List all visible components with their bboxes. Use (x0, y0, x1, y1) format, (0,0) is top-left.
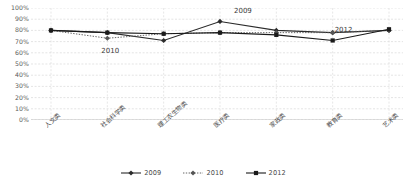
legend-label: 2009 (144, 170, 161, 177)
legend-label: 2012 (269, 170, 286, 177)
data-point-2012-2 (162, 32, 166, 36)
legend-marker-2012-icon (246, 169, 266, 177)
y-axis-tick-label: 40% (15, 72, 29, 78)
data-point-2009-3 (217, 19, 222, 24)
legend-item-2012[interactable]: 2012 (246, 169, 286, 177)
legend-marker-2010-icon (183, 169, 203, 177)
y-axis-tick-label: 50% (15, 61, 29, 67)
y-axis: 100%90%80%70%60%50%40%30%20%10%0% (0, 0, 29, 130)
y-axis-tick-label: 80% (15, 27, 29, 33)
data-annotation: 2012 (335, 27, 353, 34)
legend-item-2009[interactable]: 2009 (121, 169, 161, 177)
data-point-2012-6 (387, 27, 391, 31)
data-annotation: 2009 (234, 8, 252, 15)
legend-point-2012 (253, 171, 257, 175)
line-chart: 100%90%80%70%60%50%40%30%20%10%0% 人文类社会科… (0, 0, 407, 182)
legend-item-2010[interactable]: 2010 (183, 169, 223, 177)
y-axis-tick-label: 70% (15, 39, 29, 45)
y-axis-tick-label: 90% (15, 16, 29, 22)
y-axis-tick-label: 100% (11, 5, 29, 11)
data-point-2012-3 (218, 31, 222, 35)
y-axis-tick-label: 0% (19, 117, 29, 123)
plot-area (31, 8, 403, 120)
y-axis-tick-label: 60% (15, 50, 29, 56)
data-point-2012-5 (331, 38, 335, 42)
data-annotation: 2010 (101, 48, 119, 55)
legend-point-2009 (129, 170, 134, 175)
data-point-2012-0 (49, 28, 53, 32)
legend-label: 2010 (206, 170, 223, 177)
legend-marker-2009-icon (121, 169, 141, 177)
chart-legend: 200920102012 (0, 166, 407, 180)
data-point-2009-2 (161, 38, 166, 43)
data-point-2012-4 (274, 33, 278, 37)
data-point-2010-1 (105, 36, 110, 41)
y-axis-tick-label: 30% (15, 83, 29, 89)
y-axis-tick-label: 20% (15, 95, 29, 101)
y-axis-tick-label: 10% (15, 106, 29, 112)
data-point-2012-1 (105, 31, 109, 35)
series-layer (31, 8, 403, 120)
legend-point-2010 (191, 170, 196, 175)
x-axis: 人文类社会科学类理工农生物类医疗类家政类教育类艺术类 (31, 122, 407, 166)
